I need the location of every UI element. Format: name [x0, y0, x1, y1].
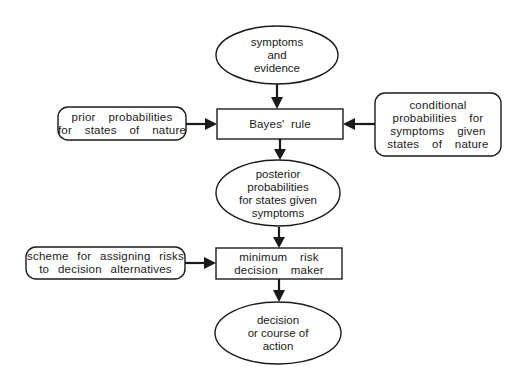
node-posterior-line: probabilities	[247, 181, 308, 194]
node-conditional-line: conditional	[409, 99, 466, 112]
node-prior-label: prior probabilities for states of nature	[58, 107, 186, 140]
node-decision-line: or course of	[248, 327, 309, 340]
node-decision-label: decision or course of action	[215, 302, 341, 365]
node-minrisk-line: decision maker	[234, 264, 324, 277]
node-posterior-line: symptoms	[252, 207, 304, 220]
node-decision-line: decision	[257, 314, 299, 327]
node-prior-line: prior probabilities	[72, 111, 173, 124]
node-minrisk-line: minimum risk	[239, 251, 319, 264]
node-bayes-label: Bayes' rule	[217, 109, 343, 139]
node-scheme-label: scheme for assigning risks to decision a…	[26, 247, 185, 279]
node-symptoms-line: symptoms	[251, 36, 303, 49]
arrowhead-prior-to-bayes	[205, 118, 217, 130]
node-scheme-line: scheme for assigning risks	[27, 250, 184, 263]
node-scheme-line: to decision alternatives	[39, 263, 172, 276]
arrowhead-symptoms-to-bayes	[271, 97, 283, 109]
node-conditional-line: probabilities for	[393, 112, 484, 125]
node-decision-line: action	[263, 340, 294, 353]
arrowhead-conditional-to-bayes	[343, 118, 355, 130]
node-symptoms-line: and	[267, 49, 286, 62]
arrowhead-posterior-to-minrisk	[273, 237, 285, 248]
node-posterior-line: posterior	[256, 168, 301, 181]
node-minrisk-label: minimum risk decision maker	[216, 248, 342, 279]
node-symptoms-label: symptoms and evidence	[216, 26, 338, 84]
node-conditional-label: conditional probabilities for symptoms g…	[375, 93, 501, 156]
arrowhead-bayes-to-posterior	[274, 149, 286, 160]
arrowhead-scheme-to-minrisk	[204, 257, 216, 269]
node-symptoms-line: evidence	[254, 62, 300, 75]
node-prior-line: for states of nature	[58, 124, 186, 137]
node-posterior-label: posterior probabilities for states given…	[216, 160, 340, 227]
node-posterior-line: for states given	[239, 194, 317, 207]
node-bayes-line: Bayes' rule	[249, 118, 311, 131]
node-conditional-line: symptoms given	[390, 125, 485, 138]
node-conditional-line: states of nature	[387, 138, 488, 151]
arrowhead-minrisk-to-decision	[273, 290, 285, 302]
